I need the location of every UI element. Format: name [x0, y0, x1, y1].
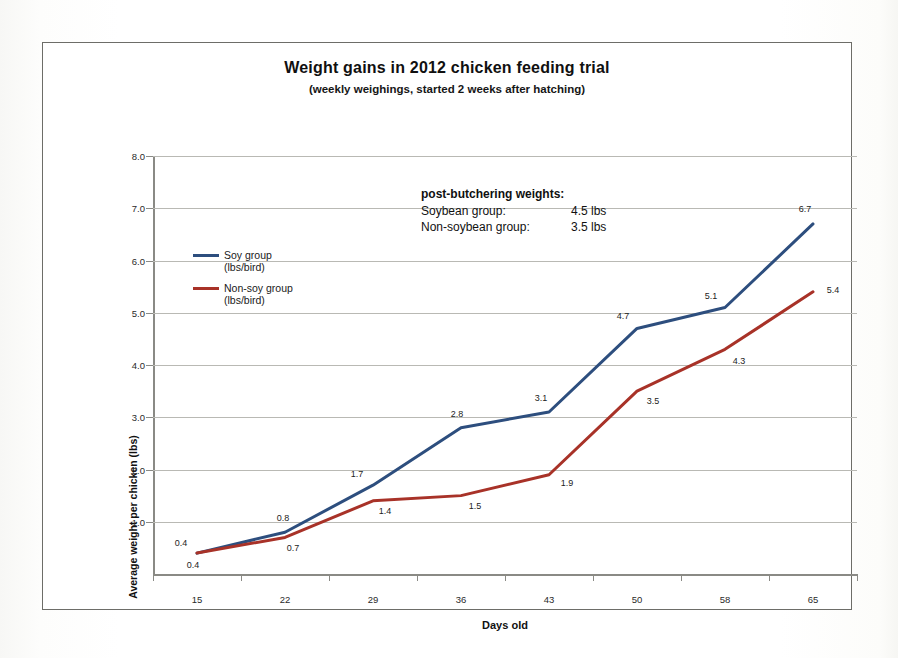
- data-label-soy-58: 5.1: [705, 291, 718, 301]
- x-tick-label-15: 15: [192, 594, 203, 605]
- y-axis-tick-labels: 1.02.03.04.05.06.07.08.0: [101, 156, 145, 574]
- annotation-value-soybean: 4.5 lbs: [571, 204, 631, 218]
- legend-sublabel-non-soy: (lbs/bird): [224, 294, 293, 306]
- y-tick-7.0: [146, 208, 153, 209]
- y-tick-label-6.0: 6.0: [101, 255, 145, 266]
- data-label-soy-29: 1.7: [351, 469, 364, 479]
- data-label-soy-22: 0.8: [277, 513, 290, 523]
- x-tick-label-58: 58: [720, 594, 731, 605]
- x-tick-2: [329, 574, 330, 581]
- x-tick-1: [241, 574, 242, 581]
- data-label-soy-65: 6.7: [799, 204, 812, 214]
- y-tick-label-8.0: 8.0: [101, 151, 145, 162]
- legend-item-non-soy: Non-soy group (lbs/bird): [193, 282, 293, 306]
- x-tick-label-22: 22: [280, 594, 291, 605]
- y-tick-4.0: [146, 365, 153, 366]
- x-tick-label-43: 43: [544, 594, 555, 605]
- annotation-row-soybean: Soybean group: 4.5 lbs: [421, 204, 631, 218]
- x-tick-0: [153, 574, 154, 581]
- x-tick-3: [417, 574, 418, 581]
- y-tick-label-2.0: 2.0: [101, 464, 145, 475]
- data-label-non-soy-22: 0.7: [287, 543, 300, 553]
- x-tick-6: [681, 574, 682, 581]
- x-tick-label-65: 65: [808, 594, 819, 605]
- y-tick-label-1.0: 1.0: [101, 516, 145, 527]
- data-label-soy-36: 2.8: [451, 409, 464, 419]
- x-tick-7: [769, 574, 770, 581]
- legend-item-soy: Soy group (lbs/bird): [193, 249, 293, 273]
- data-label-soy-15: 0.4: [175, 538, 188, 548]
- annotation-row-non-soybean: Non-soybean group: 3.5 lbs: [421, 220, 631, 234]
- y-tick-5.0: [146, 313, 153, 314]
- legend-sublabel-soy: (lbs/bird): [224, 261, 293, 273]
- x-tick-label-29: 29: [368, 594, 379, 605]
- y-tick-8.0: [146, 156, 153, 157]
- data-label-non-soy-43: 1.9: [561, 478, 574, 488]
- y-tick-2.0: [146, 470, 153, 471]
- y-tick-3.0: [146, 417, 153, 418]
- annotation-value-non-soybean: 3.5 lbs: [571, 220, 631, 234]
- data-label-non-soy-58: 4.3: [733, 356, 746, 366]
- y-tick-label-3.0: 3.0: [101, 412, 145, 423]
- legend-swatch-non-soy: [193, 287, 219, 290]
- chart-frame: Weight gains in 2012 chicken feeding tri…: [42, 42, 852, 610]
- series-line-non-soy: [197, 292, 813, 553]
- data-label-non-soy-50: 3.5: [647, 396, 660, 406]
- y-tick-6.0: [146, 261, 153, 262]
- data-label-non-soy-15: 0.4: [187, 560, 200, 570]
- x-tick-4: [505, 574, 506, 581]
- y-tick-1.0: [146, 522, 153, 523]
- annotation-title: post-butchering weights:: [421, 187, 631, 201]
- y-tick-label-4.0: 4.0: [101, 360, 145, 371]
- legend: Soy group (lbs/bird) Non-soy group (lbs/…: [193, 249, 293, 315]
- chart-title: Weight gains in 2012 chicken feeding tri…: [43, 59, 851, 77]
- legend-label-non-soy: Non-soy group: [224, 282, 293, 294]
- x-tick-5: [593, 574, 594, 581]
- y-tick-label-5.0: 5.0: [101, 307, 145, 318]
- data-label-non-soy-29: 1.4: [379, 506, 392, 516]
- annotation-block: post-butchering weights: Soybean group: …: [421, 187, 631, 234]
- chart-subtitle: (weekly weighings, started 2 weeks after…: [43, 83, 851, 95]
- x-axis-title: Days old: [153, 619, 857, 631]
- x-tick-8: [857, 574, 858, 581]
- data-label-soy-50: 4.7: [617, 311, 630, 321]
- y-tick-label-7.0: 7.0: [101, 203, 145, 214]
- x-tick-label-36: 36: [456, 594, 467, 605]
- data-label-soy-43: 3.1: [535, 393, 548, 403]
- data-label-non-soy-36: 1.5: [469, 501, 482, 511]
- annotation-label-soybean: Soybean group:: [421, 204, 571, 218]
- legend-swatch-soy: [193, 254, 219, 257]
- data-label-non-soy-65: 5.4: [827, 285, 840, 295]
- x-tick-label-50: 50: [632, 594, 643, 605]
- legend-label-soy: Soy group: [224, 249, 272, 261]
- annotation-label-non-soybean: Non-soybean group:: [421, 220, 571, 234]
